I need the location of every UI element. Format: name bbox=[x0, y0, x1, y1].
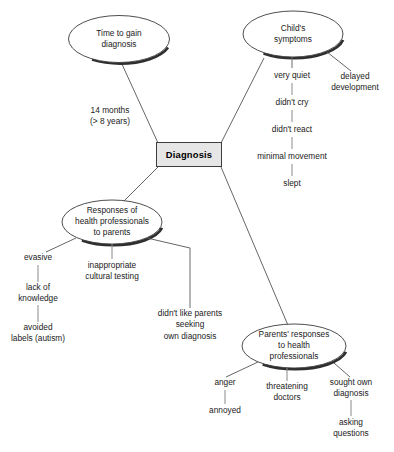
edge-center-to-parents-responses bbox=[221, 167, 290, 330]
node-very-quiet: very quiet bbox=[274, 70, 310, 81]
edge-parents-responses-to-sought-own-diagnosis bbox=[334, 363, 350, 377]
node-delayed-development: delayed development bbox=[331, 71, 379, 94]
node-threatening-doctors: threatening doctors bbox=[266, 381, 308, 404]
edge-center-to-time-to-gain-diagnosis bbox=[121, 62, 158, 143]
ellipse-label-responses-health-professionals: Responses of health professionals to par… bbox=[75, 205, 149, 239]
node-minimal-movement: minimal movement bbox=[257, 151, 327, 162]
edge-responses-to-evasive bbox=[46, 238, 76, 252]
ellipse-label-time-to-gain-diagnosis: Time to gain diagnosis bbox=[96, 28, 141, 50]
node-inappropriate-cultural-testing: inappropriate cultural testing bbox=[85, 260, 139, 283]
ellipse-label-childs-symptoms: Child's symptoms bbox=[274, 23, 312, 45]
node-anger: anger bbox=[214, 377, 235, 388]
edge-label-time-to-diagnosis-duration: 14 months (> 8 years) bbox=[90, 105, 130, 128]
mindmap-canvas: Diagnosis Time to gain diagnosis Child's… bbox=[0, 0, 394, 452]
node-didnt-cry: didn't cry bbox=[276, 97, 309, 108]
edge-center-to-childs-symptoms bbox=[221, 58, 264, 143]
edge-parents-responses-to-anger bbox=[226, 362, 258, 377]
edge-responses-to-didnt-like-parents-diag bbox=[147, 238, 190, 248]
node-annoyed: annoyed bbox=[209, 405, 241, 416]
node-evasive: evasive bbox=[24, 252, 52, 263]
edge-childs-symptoms-to-delayed-development bbox=[327, 52, 351, 71]
node-slept: slept bbox=[283, 178, 301, 189]
node-avoided-labels-autism: avoided labels (autism) bbox=[11, 322, 65, 345]
node-asking-questions: asking questions bbox=[333, 417, 369, 440]
center-node-diagnosis[interactable]: Diagnosis bbox=[156, 142, 222, 167]
node-sought-own-diagnosis: sought own diagnosis bbox=[330, 377, 372, 400]
node-didnt-like-parents-seeking-own-diagnosis: didn't like parents seeking own diagnosi… bbox=[158, 308, 222, 342]
edge-center-to-responses-of-health-professionals bbox=[124, 167, 158, 201]
ellipse-label-parents-responses: Parents' responses to health professiona… bbox=[259, 329, 330, 363]
node-lack-of-knowledge: lack of knowledge bbox=[18, 282, 58, 305]
node-didnt-react: didn't react bbox=[272, 124, 312, 135]
